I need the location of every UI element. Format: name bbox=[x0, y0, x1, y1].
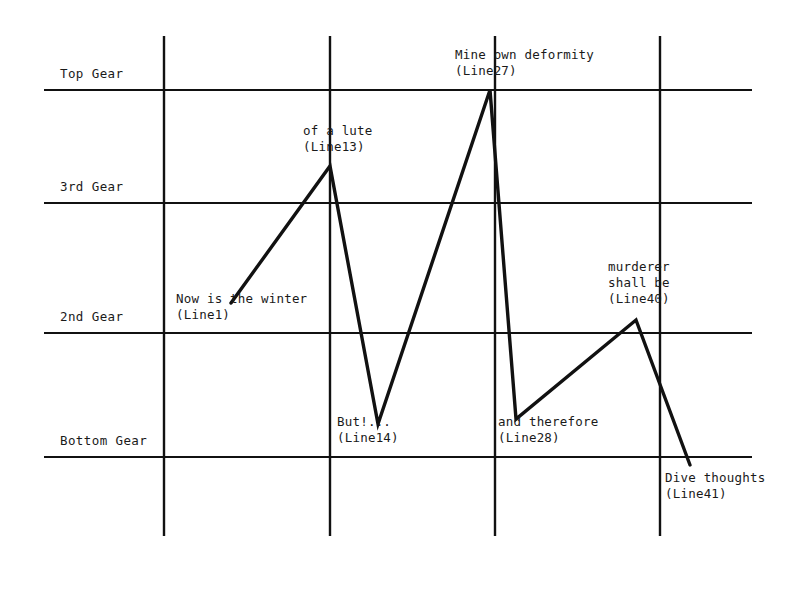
annotation-line41: Dive thoughts (Line41) bbox=[665, 470, 765, 502]
annotation-line41-ref: (Line41) bbox=[665, 486, 765, 502]
annotation-line28-ref: (Line28) bbox=[498, 430, 598, 446]
annotation-line13-text: of a lute bbox=[303, 123, 373, 139]
annotation-line28-text: and therefore bbox=[498, 414, 598, 430]
axis-label-3rd-gear: 3rd Gear bbox=[60, 179, 123, 194]
annotation-line1-ref: (Line1) bbox=[176, 307, 307, 323]
annotation-line41-text: Dive thoughts bbox=[665, 470, 765, 486]
annotation-line40-ref: (Line40) bbox=[608, 291, 670, 307]
annotation-line27: Mine own deformity (Line27) bbox=[455, 47, 594, 79]
annotation-line40-text2: shall be bbox=[608, 275, 670, 291]
annotation-line40-text: murderer bbox=[608, 259, 670, 275]
annotation-line27-text: Mine own deformity bbox=[455, 47, 594, 63]
annotation-line14-text: But!... bbox=[337, 414, 399, 430]
axis-label-bottom-gear: Bottom Gear bbox=[60, 433, 147, 448]
annotation-line28: and therefore (Line28) bbox=[498, 414, 598, 446]
annotation-line1: Now is the winter (Line1) bbox=[176, 291, 307, 323]
annotation-line27-ref: (Line27) bbox=[455, 63, 594, 79]
annotation-line13: of a lute (Line13) bbox=[303, 123, 373, 155]
axis-label-2nd-gear: 2nd Gear bbox=[60, 309, 123, 324]
annotation-line13-ref: (Line13) bbox=[303, 139, 373, 155]
annotation-line14-ref: (Line14) bbox=[337, 430, 399, 446]
annotation-line40: murderer shall be (Line40) bbox=[608, 259, 670, 307]
plot-area bbox=[0, 0, 805, 592]
annotation-line1-text: Now is the winter bbox=[176, 291, 307, 307]
gear-chart: Top Gear 3rd Gear 2nd Gear Bottom Gear N… bbox=[0, 0, 805, 592]
annotation-line14: But!... (Line14) bbox=[337, 414, 399, 446]
vertical-gridlines bbox=[164, 36, 660, 536]
axis-label-top-gear: Top Gear bbox=[60, 66, 123, 81]
